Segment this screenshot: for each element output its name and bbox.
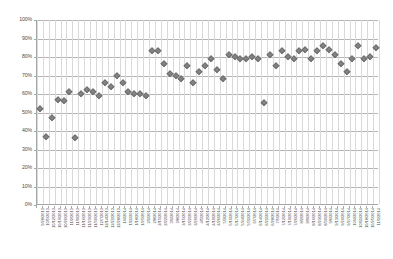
data-point <box>325 46 333 54</box>
x-axis-tick-mark <box>242 206 243 208</box>
x-axis-tick-label: 10/26/2013 <box>64 208 68 228</box>
x-axis-tick-label: 11/9/2013 <box>76 208 80 225</box>
x-axis-tick-label: 6/14/2014 <box>259 208 263 226</box>
x-axis-tick-mark <box>354 206 355 208</box>
x-axis-tick-mark <box>254 206 255 208</box>
x-axis-tick-mark <box>343 206 344 208</box>
x-axis-tick-mark <box>313 206 314 208</box>
x-axis-tick-label: 5/24/2014 <box>241 208 245 226</box>
x-axis-tick-mark <box>248 206 249 208</box>
x-axis-tick-label: 10/19/2013 <box>58 208 62 228</box>
data-point <box>142 92 150 100</box>
x-axis-tick-mark <box>166 206 167 208</box>
data-point <box>331 51 339 59</box>
x-axis-tick-mark <box>36 206 37 208</box>
x-axis-tick-mark <box>60 206 61 208</box>
x-axis-tick-mark <box>107 206 108 208</box>
x-axis-tick-label: 12/7/2013 <box>100 208 104 226</box>
data-point <box>278 48 286 56</box>
x-axis: 9/28/201310/5/201310/12/201310/19/201310… <box>36 206 378 259</box>
x-axis-tick-label: 10/4/2014 <box>353 208 357 226</box>
x-axis-tick-mark <box>65 206 66 208</box>
x-axis-tick-label: 2/22/2014 <box>164 208 168 226</box>
x-axis-tick-label: 8/9/2014 <box>306 208 310 224</box>
scatter-chart: 0%10%20%30%40%50%60%70%80%90%100% 9/28/2… <box>0 0 393 259</box>
x-axis-tick-mark <box>113 206 114 208</box>
x-axis-tick-mark <box>366 206 367 208</box>
x-axis-tick-label: 6/7/2014 <box>253 208 257 224</box>
x-axis-tick-mark <box>189 206 190 208</box>
x-axis-tick-label: 3/22/2014 <box>188 208 192 226</box>
data-point <box>113 72 121 80</box>
x-axis-tick-mark <box>219 206 220 208</box>
data-series <box>37 20 378 204</box>
x-axis-tick-label: 10/12/2013 <box>52 208 56 228</box>
y-axis-tick-label: 80% <box>0 54 32 59</box>
x-axis-tick-label: 3/1/2014 <box>170 208 174 224</box>
data-point <box>219 75 227 83</box>
plot-area <box>36 20 378 205</box>
data-point <box>207 55 215 63</box>
data-point <box>66 88 74 96</box>
y-axis-tick-label: 10% <box>0 184 32 189</box>
data-point <box>184 62 192 70</box>
data-point <box>189 79 197 87</box>
x-axis-tick-mark <box>172 206 173 208</box>
x-axis-tick-mark <box>325 206 326 208</box>
x-axis-tick-mark <box>83 206 84 208</box>
data-point <box>36 105 44 113</box>
x-axis-tick-mark <box>272 206 273 208</box>
x-axis-tick-mark <box>372 206 373 208</box>
y-axis-tick-label: 70% <box>0 73 32 78</box>
x-axis-tick-mark <box>160 206 161 208</box>
y-axis-tick-label: 40% <box>0 128 32 133</box>
x-axis-tick-label: 1/4/2014 <box>123 208 127 224</box>
x-axis-tick-label: 10/25/2014 <box>371 208 375 228</box>
data-point <box>178 75 186 83</box>
x-axis-tick-label: 12/14/2013 <box>105 208 109 228</box>
x-axis-tick-mark <box>266 206 267 208</box>
x-axis-tick-label: 6/28/2014 <box>271 208 275 226</box>
x-axis-tick-mark <box>360 206 361 208</box>
x-axis-tick-mark <box>71 206 72 208</box>
x-axis-tick-mark <box>183 206 184 208</box>
y-axis-tick-label: 30% <box>0 147 32 152</box>
x-axis-tick-label: 8/16/2014 <box>312 208 316 226</box>
y-axis-tick-label: 0% <box>0 202 32 207</box>
x-axis-tick-label: 7/19/2014 <box>288 208 292 226</box>
x-axis-tick-label: 1/18/2014 <box>135 208 139 226</box>
x-axis-tick-label: 10/11/2014 <box>359 208 363 228</box>
x-axis-tick-mark <box>154 206 155 208</box>
x-axis-tick-label: 2/1/2014 <box>147 208 151 224</box>
x-axis-tick-mark <box>77 206 78 208</box>
y-axis-tick-label: 90% <box>0 36 32 41</box>
x-axis-tick-mark <box>337 206 338 208</box>
x-axis-tick-mark <box>331 206 332 208</box>
x-axis-tick-mark <box>42 206 43 208</box>
x-axis-tick-mark <box>124 206 125 208</box>
x-axis-tick-label: 12/28/2013 <box>117 208 121 228</box>
data-point <box>272 62 280 70</box>
data-point <box>266 51 274 59</box>
data-point <box>60 98 68 106</box>
x-axis-tick-label: 4/26/2014 <box>217 208 221 226</box>
x-axis-tick-mark <box>95 206 96 208</box>
x-axis-tick-mark <box>201 206 202 208</box>
x-axis-tick-mark <box>284 206 285 208</box>
x-axis-tick-label: 6/21/2014 <box>265 208 269 226</box>
x-axis-tick-mark <box>236 206 237 208</box>
x-axis-tick-label: 9/6/2014 <box>329 208 333 224</box>
x-axis-tick-label: 5/31/2014 <box>247 208 251 226</box>
data-point <box>366 53 374 61</box>
x-axis-tick-label: 8/23/2014 <box>318 208 322 226</box>
x-axis-tick-mark <box>195 206 196 208</box>
data-point <box>349 55 357 63</box>
x-axis-tick-label: 11/16/2013 <box>82 208 86 228</box>
data-point <box>213 66 221 74</box>
data-point <box>301 46 309 54</box>
data-point <box>313 48 321 56</box>
data-point <box>195 68 203 76</box>
x-axis-tick-mark <box>101 206 102 208</box>
x-axis-tick-mark <box>260 206 261 208</box>
x-axis-tick-label: 7/12/2014 <box>282 208 286 226</box>
